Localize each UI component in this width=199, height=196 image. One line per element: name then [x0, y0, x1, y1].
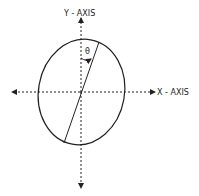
- x-axis-label: X - AXIS: [157, 88, 189, 97]
- angle-arc: [81, 58, 91, 60]
- ellipse-diagram: θ Y - AXIS X - AXIS: [0, 0, 199, 196]
- y-axis-label: Y - AXIS: [63, 9, 95, 18]
- angle-theta-label: θ: [85, 47, 90, 56]
